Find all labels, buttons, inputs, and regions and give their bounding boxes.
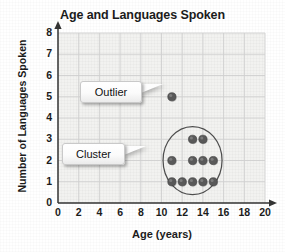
x-tick-label: 4 [89,206,109,218]
y-tick-label: 4 [36,111,52,123]
y-tick-label: 6 [36,69,52,81]
x-tick-label: 20 [255,206,275,218]
chart-figure: Age and Languages Spoken Number of Langu… [0,0,285,252]
x-tick-label: 2 [69,206,89,218]
y-tick-label: 2 [36,154,52,166]
y-tick-label: 0 [36,196,52,208]
y-tick-label: 7 [36,47,52,59]
x-tick-label: 6 [110,206,130,218]
x-tick-label: 18 [234,206,254,218]
x-tick-label: 14 [193,206,213,218]
x-tick-label: 12 [172,206,192,218]
x-tick-label: 10 [152,206,172,218]
outlier-callout-tail [141,84,163,102]
cluster-callout: Cluster [62,143,125,165]
x-axis-title: Age (years) [58,228,266,240]
y-tick-label: 8 [36,26,52,38]
x-tick-label: 16 [214,206,234,218]
y-tick-label: 1 [36,175,52,187]
cluster-callout-tail [124,146,146,164]
y-tick-label: 3 [36,132,52,144]
outlier-callout: Outlier [80,81,142,103]
x-tick-label: 8 [131,206,151,218]
y-tick-label: 5 [36,90,52,102]
